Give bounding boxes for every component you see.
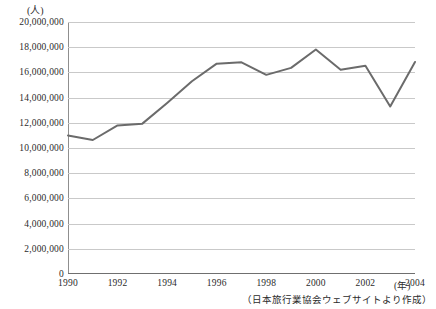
x-tick-label: 1992 (108, 278, 128, 288)
series-polyline (68, 49, 415, 140)
source-note: （日本旅行業協会ウェブサイトより作成） (242, 292, 432, 306)
y-tick-label: 12,000,000 (19, 118, 64, 128)
x-tick-label: 1994 (157, 278, 177, 288)
x-tick-label: 1998 (256, 278, 276, 288)
y-tick-label: 18,000,000 (19, 42, 64, 52)
y-tick-label: 6,000,000 (24, 193, 64, 203)
y-tick-label: 2,000,000 (24, 244, 64, 254)
x-tick-label: 2002 (356, 278, 376, 288)
y-tick-label: 4,000,000 (24, 219, 64, 229)
x-tick-label: 2000 (306, 278, 326, 288)
y-axis-unit-label: (人) (27, 2, 44, 17)
x-axis-unit-label: (年) (394, 278, 410, 292)
y-tick-label: 20,000,000 (19, 17, 64, 27)
y-tick-label: 10,000,000 (19, 143, 64, 153)
y-tick-label: 14,000,000 (19, 93, 64, 103)
data-series-line (68, 22, 415, 274)
plot-area (68, 22, 415, 274)
x-tick-label: 1990 (58, 278, 78, 288)
y-tick-label: 8,000,000 (24, 168, 64, 178)
x-tick-label: 1996 (207, 278, 227, 288)
line-chart: (人) 20,000,00018,000,00016,000,00014,000… (0, 0, 436, 309)
y-tick-label: 16,000,000 (19, 67, 64, 77)
